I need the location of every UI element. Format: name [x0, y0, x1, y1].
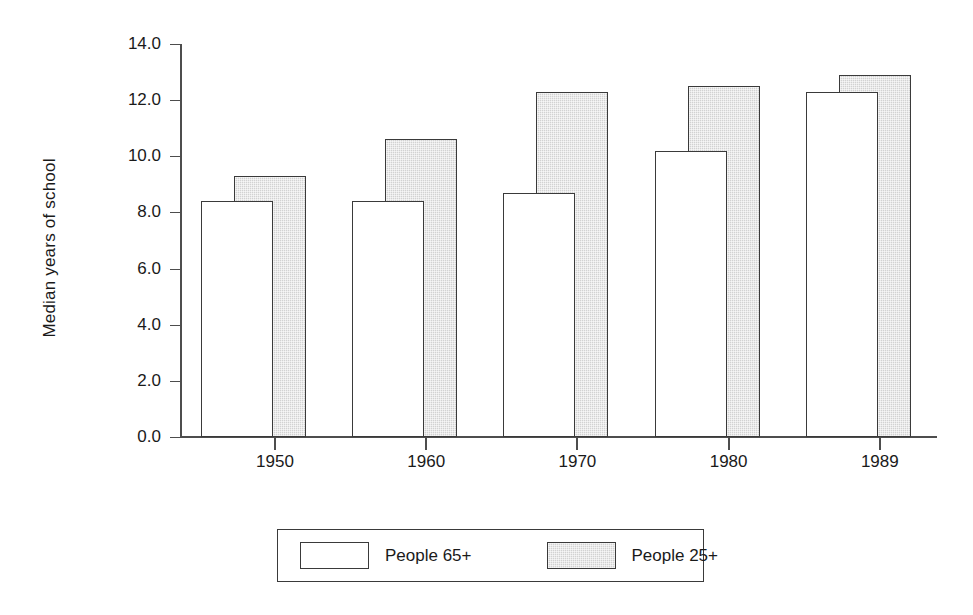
x-axis-tick — [425, 438, 427, 450]
plot-area: 0.02.04.06.08.010.012.014.0 — [181, 44, 937, 437]
y-axis-tick: 0.0 — [170, 437, 181, 438]
x-axis-tick — [879, 438, 881, 450]
y-axis-tick-label: 8.0 — [137, 202, 161, 222]
y-axis-tick: 2.0 — [170, 381, 181, 382]
bar-people-65-plus — [352, 201, 424, 437]
legend-label-people-25-plus: People 25+ — [632, 546, 719, 566]
y-axis-tick: 4.0 — [170, 325, 181, 326]
y-axis-tick-label: 14.0 — [128, 34, 161, 54]
bar-people-65-plus — [806, 92, 878, 437]
bar-people-65-plus — [503, 193, 575, 437]
y-axis-tick: 6.0 — [170, 269, 181, 270]
legend-entry-people-65-plus: People 65+ — [300, 530, 472, 581]
y-axis-tick-label: 0.0 — [137, 427, 161, 447]
legend-label-people-65-plus: People 65+ — [385, 546, 472, 566]
x-axis-tick — [576, 438, 578, 450]
chart-legend: People 65+ People 25+ — [277, 529, 704, 582]
bar-chart: Median years of school 0.02.04.06.08.010… — [0, 0, 973, 615]
x-axis-tick-label: 1989 — [861, 452, 899, 472]
legend-entry-people-25-plus: People 25+ — [547, 530, 719, 581]
legend-swatch-icon-people-25-plus — [547, 542, 616, 569]
x-axis-tick — [274, 438, 276, 450]
y-axis-tick-label: 10.0 — [128, 146, 161, 166]
y-axis-tick: 12.0 — [170, 100, 181, 101]
x-axis-tick — [728, 438, 730, 450]
y-axis-tick-label: 12.0 — [128, 90, 161, 110]
bar-people-65-plus — [201, 201, 273, 437]
y-axis-tick: 10.0 — [170, 156, 181, 157]
y-axis-tick-label: 4.0 — [137, 315, 161, 335]
legend-swatch-icon-people-65-plus — [300, 542, 369, 569]
x-axis-tick-label: 1960 — [407, 452, 445, 472]
y-axis-tick-label: 2.0 — [137, 371, 161, 391]
y-axis-tick-label: 6.0 — [137, 259, 161, 279]
bar-people-65-plus — [655, 151, 727, 437]
y-axis-tick: 14.0 — [170, 44, 181, 45]
x-axis-tick-label: 1970 — [558, 452, 596, 472]
x-axis-tick-label: 1950 — [256, 452, 294, 472]
y-axis-title: Median years of school — [40, 108, 60, 388]
x-axis-tick-label: 1980 — [710, 452, 748, 472]
y-axis-tick: 8.0 — [170, 212, 181, 213]
